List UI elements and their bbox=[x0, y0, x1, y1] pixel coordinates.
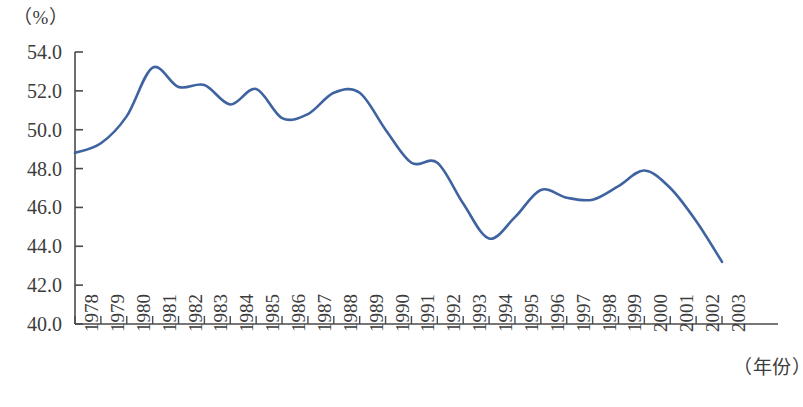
x-axis-tick-label: 2000 bbox=[651, 294, 670, 332]
x-axis-tick-label: 1991 bbox=[418, 294, 437, 332]
x-axis-tick-label: 1989 bbox=[367, 294, 386, 332]
x-axis-title: （年份） bbox=[733, 352, 803, 379]
x-axis-tick-label: 1980 bbox=[134, 294, 153, 332]
x-axis-tick-label: 1986 bbox=[289, 294, 308, 332]
x-axis-tick-label: 1995 bbox=[522, 294, 541, 332]
x-axis-tick-label: 1997 bbox=[574, 294, 593, 332]
x-axis-tick-label: 1987 bbox=[315, 294, 334, 332]
x-axis-tick-label: 2001 bbox=[677, 294, 696, 332]
x-axis-tick-label: 1994 bbox=[496, 294, 515, 332]
x-axis-tick-label: 1983 bbox=[211, 294, 230, 332]
x-axis-tick-label: 1993 bbox=[470, 294, 489, 332]
x-axis-tick-label: 1982 bbox=[186, 294, 205, 332]
x-axis-tick-label: 2003 bbox=[729, 294, 748, 332]
x-axis-tick-label: 1999 bbox=[625, 294, 644, 332]
x-axis-tick-label: 1984 bbox=[237, 294, 256, 332]
x-axis-tick-label: 1992 bbox=[444, 294, 463, 332]
x-axis-tick-label: 1996 bbox=[548, 294, 567, 332]
x-axis-tick-label: 1990 bbox=[393, 294, 412, 332]
x-axis-tick-label: 1979 bbox=[108, 294, 127, 332]
x-axis-tick-label: 1985 bbox=[263, 294, 282, 332]
x-axis-tick-label: 1981 bbox=[160, 294, 179, 332]
x-axis-tick-label: 1988 bbox=[341, 294, 360, 332]
x-axis-tick-label: 1998 bbox=[600, 294, 619, 332]
x-axis-tick-label: 2002 bbox=[703, 294, 722, 332]
x-axis-tick-label: 1978 bbox=[82, 294, 101, 332]
